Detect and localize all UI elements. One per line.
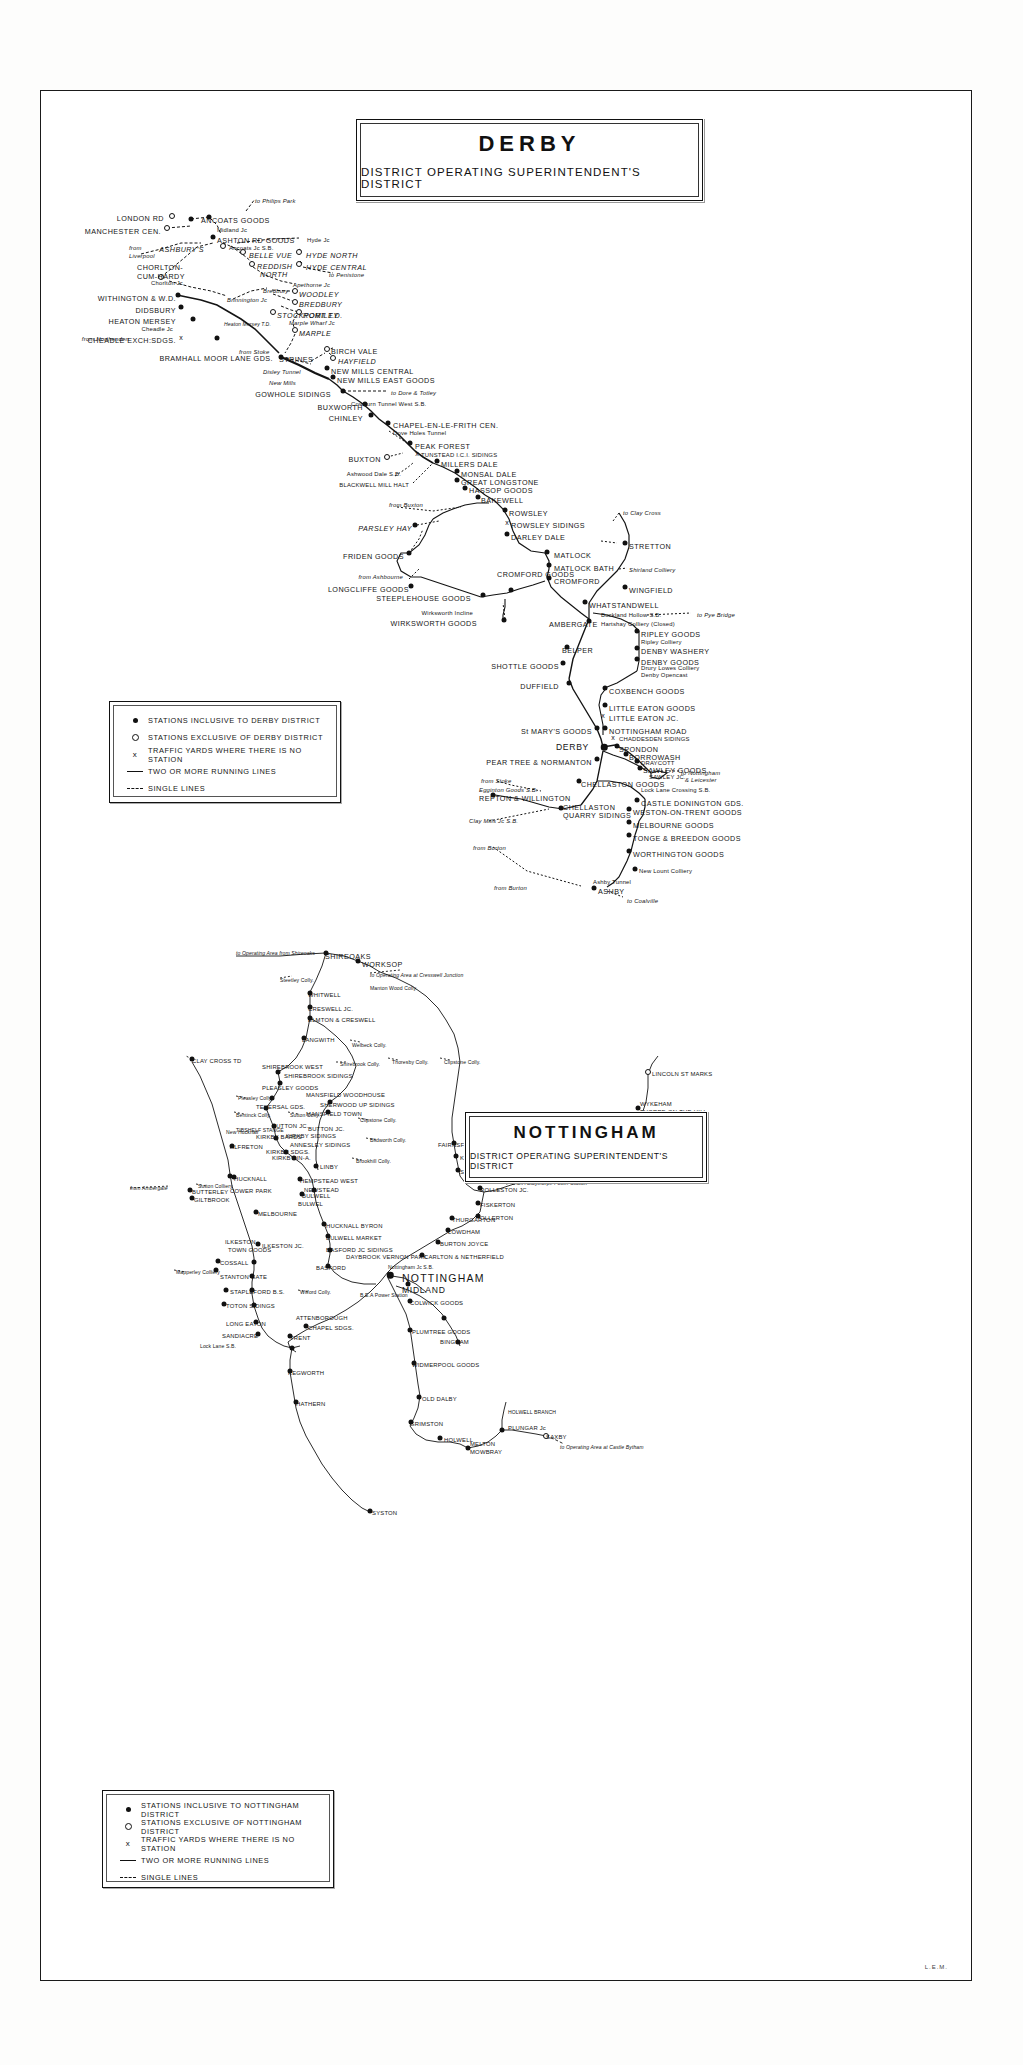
station-dot-nottingham [387,1272,394,1279]
map-label: COLWICK GOODS [410,1301,463,1307]
map-label: GILTBROOK [194,1198,230,1204]
map-label: NOTTINGHAM [402,1273,485,1284]
map-label: BUTTON JC. [308,1127,345,1133]
map-label: BINGHAM [440,1340,469,1346]
map-label: WIDMERPOOL GOODS [412,1363,479,1369]
map-label: HOLWELL [444,1438,473,1444]
map-label: Shirebrook Colly. [340,1062,380,1067]
map-label: HATHERN [296,1402,325,1408]
map-label: WORKSOP [362,961,403,968]
map-label: ILKESTON [225,1240,256,1246]
nottingham-title-inner: NOTTINGHAM DISTRICT OPERATING SUPERINTEN… [469,1116,703,1178]
nottingham-legend-inner: STATIONS INCLUSIVE TO NOTTINGHAM DISTRIC… [106,1794,330,1882]
map-label: to Operating Area at Castle Bytham [560,1445,644,1450]
map-label: LINCOLN ST MARKS [652,1072,712,1078]
map-label: OLD DALBY [422,1397,457,1403]
map-label: Blidworth Colly. [370,1138,406,1143]
map-label: HOLWELL BRANCH [508,1410,556,1415]
map-label: Clipstone Colly. [360,1118,397,1123]
map-label: Steetley Colly. [280,978,314,983]
station-dot [442,1316,447,1321]
legend-row: xTRAFFIC YARDS WHERE THERE IS NO STATION [115,1835,321,1852]
station-dot [500,1428,505,1433]
legend-row: STATIONS INCLUSIVE TO NOTTINGHAM DISTRIC… [115,1801,321,1818]
map-label: COSSALL [220,1261,249,1267]
map-label: B.E.A Power Station [360,1293,408,1298]
legend-open-circle-icon [115,1822,141,1831]
map-label: LOWDHAM [448,1230,480,1236]
map-label: Wilford Colly. [300,1290,331,1295]
legend-label: STATIONS EXCLUSIVE OF NOTTINGHAM DISTRIC… [141,1818,321,1836]
map-label: STAPLEFORD B.S. [230,1290,285,1296]
map-label: TIBSHELF STANGE [236,1128,284,1133]
map-label: from Ambergate [130,1186,168,1191]
legend-dashed-line-icon [115,1873,141,1882]
station-dot [314,1164,319,1169]
legend-row: SINGLE LINES [115,1869,321,1886]
map-label: PLUNGAR Jc [508,1426,546,1432]
nottingham-overlay: SHIREOAKSWORKSOPto Operating Area from S… [40,90,970,1980]
map-label: MELTON [470,1442,495,1448]
station-dot [256,1242,261,1247]
map-label: DAYBROOK VERNON PARK [346,1255,427,1261]
map-label: WHITWELL [308,993,341,999]
station-dot-open [645,1069,651,1075]
legend-label: STATIONS INCLUSIVE TO NOTTINGHAM DISTRIC… [141,1801,321,1819]
nottingham-title-box: NOTTINGHAM DISTRICT OPERATING SUPERINTEN… [465,1112,707,1182]
map-label: MIDLAND [402,1286,446,1295]
legend-label: TWO OR MORE RUNNING LINES [141,1856,269,1865]
station-dot [290,1346,295,1351]
map-label: GRIMSTON [410,1422,443,1428]
map-label: ALFRETON [230,1145,263,1151]
map-label: STANTON GATE [220,1275,267,1281]
map-label: SANDIACRE [222,1334,258,1340]
legend-filled-circle-icon [115,1805,141,1814]
map-label: Nottingham Jc S.B. [388,1265,433,1270]
map-label: Welbeck Colly. [352,1043,387,1048]
map-label: LINBY [320,1165,338,1171]
legend-x-icon: x [115,1839,141,1848]
station-dot [417,1395,422,1400]
map-label: BASFORD [316,1266,346,1272]
map-label: BURTON JOYCE [440,1242,488,1248]
map-label: Thoresby Colly. [392,1060,429,1065]
map-label: CHAPEL SDGS. [308,1326,354,1332]
map-label: KIRKBY SIDINGS [286,1134,336,1140]
map-label: LANGWITH [302,1038,335,1044]
nottingham-legend-box: STATIONS INCLUSIVE TO NOTTINGHAM DISTRIC… [102,1790,334,1888]
map-label: NEWSTEAD [304,1188,339,1194]
map-label: BULWELL MARKET [326,1236,382,1242]
map-label: TOTON SIDINGS [226,1304,275,1310]
map-page: x x x [0,0,1023,2065]
map-label: to Operating Area from Shireoaks [236,951,315,956]
map-label: HUCKNALL [234,1177,267,1183]
map-label: CARLTON & NETHERFIELD [424,1255,504,1261]
map-label: MOWBRAY [470,1450,502,1456]
map-label: Clipstone Colly. [444,1060,481,1065]
map-label: CRESWELL JC. [308,1007,353,1013]
station-dot [454,1154,459,1159]
legend-label: SINGLE LINES [141,1873,198,1882]
map-label: to Operating Area at Cresswell Junction [370,973,463,978]
map-label: WYKEHAM [640,1102,672,1108]
artist-signature: L.E.M. [925,1964,948,1970]
map-label: MANSFIELD TOWN [306,1112,362,1118]
map-label: SYSTON [372,1511,397,1517]
map-label: Lock Lane S.B. [200,1344,236,1349]
map-label: MELBOURNE [258,1212,297,1218]
map-label: KIRKBY-IN-A. [272,1156,311,1162]
map-label: HEMPSTEAD WEST [300,1179,358,1185]
map-label: FISKERTON [480,1203,515,1209]
map-label: HUCKNALL BYRON [326,1224,383,1230]
legend-row: STATIONS EXCLUSIVE OF NOTTINGHAM DISTRIC… [115,1818,321,1835]
nottingham-rail-network [40,90,970,1980]
map-label: ATTENBOROUGH [296,1316,348,1322]
map-label: Mapperley Colliery [176,1270,220,1275]
map-label: MANSFIELD WOODHOUSE [306,1093,385,1099]
map-label: Bentinck Colly. [236,1113,271,1118]
map-label: TRENT [290,1336,311,1342]
station-dot [224,1288,229,1293]
nottingham-subtitle: DISTRICT OPERATING SUPERINTENDENT'S DIST… [470,1151,702,1171]
map-label: TOWN GOODS [228,1248,271,1254]
map-label: KEGWORTH [288,1371,324,1377]
